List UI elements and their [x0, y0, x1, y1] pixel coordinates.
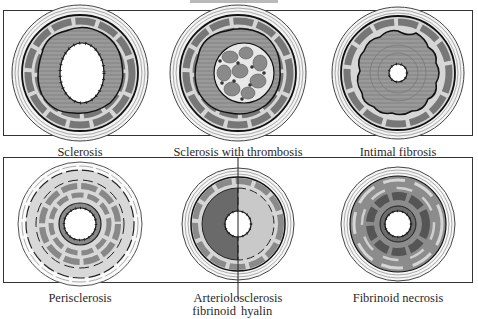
- vessel-sclerosis-with-thrombosis: [170, 5, 306, 141]
- vessel-fibrinoid-necrosis: [341, 167, 455, 281]
- vessel-perisclerosis: [18, 162, 142, 286]
- label-intimal-fibrosis: Intimal fibrosis: [298, 145, 478, 160]
- vessel-arteriolosclerosis: [182, 157, 294, 299]
- sublabel-fibrinoid: fibrinoid: [192, 304, 236, 319]
- vessel-intimal-fibrosis: [332, 7, 464, 139]
- label-fibrinoid-necrosis: Fibrinoid necrosis: [298, 291, 478, 306]
- sublabel-hyalin: hyalin: [241, 304, 272, 319]
- vessel-sclerosis: [12, 5, 148, 141]
